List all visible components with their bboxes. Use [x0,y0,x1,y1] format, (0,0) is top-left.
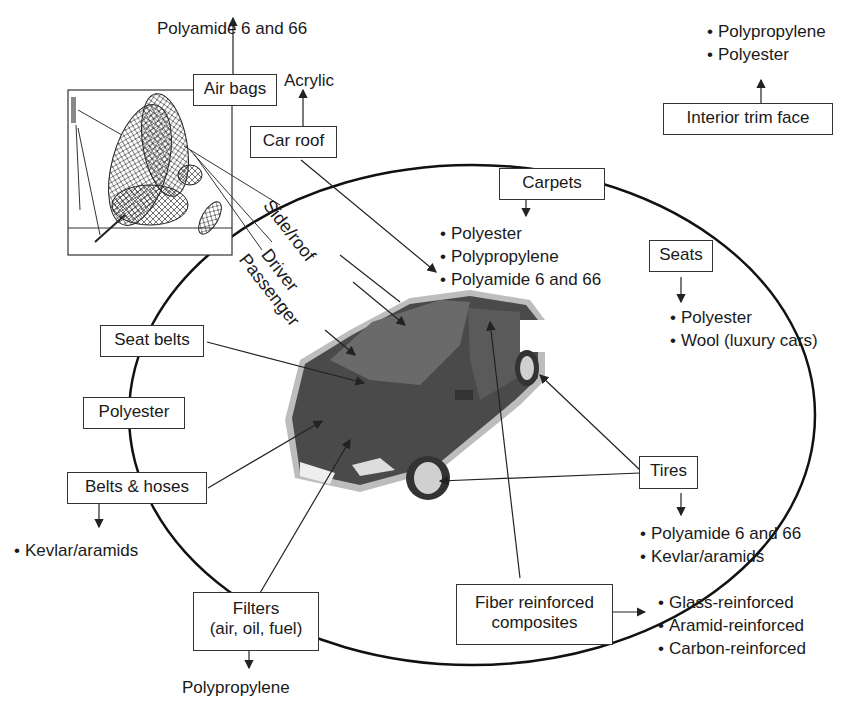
composites-box: Fiber reinforced composites [456,584,613,645]
seats-materials: Polyester Wool (luxury cars) [670,306,818,352]
seat-belts-box: Seat belts [100,325,204,357]
filters-box: Filters (air, oil, fuel) [193,592,319,651]
air-bags-box: Air bags [193,74,277,106]
material-item: Polypropylene [440,245,601,268]
material-item: Polyester [670,306,818,329]
material-item: Carbon-reinforced [658,637,806,660]
material-item: Polyester [707,43,826,66]
seat-belts-material-box: Polyester [83,397,185,429]
material-item: Polyamide 6 and 66 [440,268,601,291]
interior-trim-box: Interior trim face [663,103,833,135]
car-roof-material: Acrylic [284,70,334,92]
material-item: Aramid-reinforced [658,614,806,637]
material-item: Polyamide 6 and 66 [640,522,801,545]
material-item: Polypropylene [707,20,826,43]
airbag-illustration [68,90,280,255]
filters-material: Polypropylene [182,677,290,699]
tires-materials: Polyamide 6 and 66 Kevlar/aramids [640,522,801,568]
interior-trim-materials: Polypropylene Polyester [707,20,826,66]
material-item: Kevlar/aramids [14,539,138,562]
belts-hoses-materials: Kevlar/aramids [14,539,138,562]
composites-materials: Glass-reinforced Aramid-reinforced Carbo… [658,591,806,660]
filters-label-line1: Filters [200,599,312,619]
composites-label-line2: composites [463,613,606,633]
material-item: Wool (luxury cars) [670,329,818,352]
carpets-materials: Polyester Polypropylene Polyamide 6 and … [440,222,601,291]
material-item: Glass-reinforced [658,591,806,614]
material-item: Polyester [440,222,601,245]
seats-box: Seats [649,240,713,272]
carpets-box: Carpets [499,168,605,200]
air-bags-material: Polyamide 6 and 66 [157,18,307,40]
tires-box: Tires [639,456,698,489]
belts-hoses-box: Belts & hoses [67,472,207,504]
car-roof-box: Car roof [250,126,337,158]
filters-label-line2: (air, oil, fuel) [200,619,312,639]
car-illustration [285,290,548,500]
material-item: Kevlar/aramids [640,545,801,568]
composites-label-line1: Fiber reinforced [463,593,606,613]
